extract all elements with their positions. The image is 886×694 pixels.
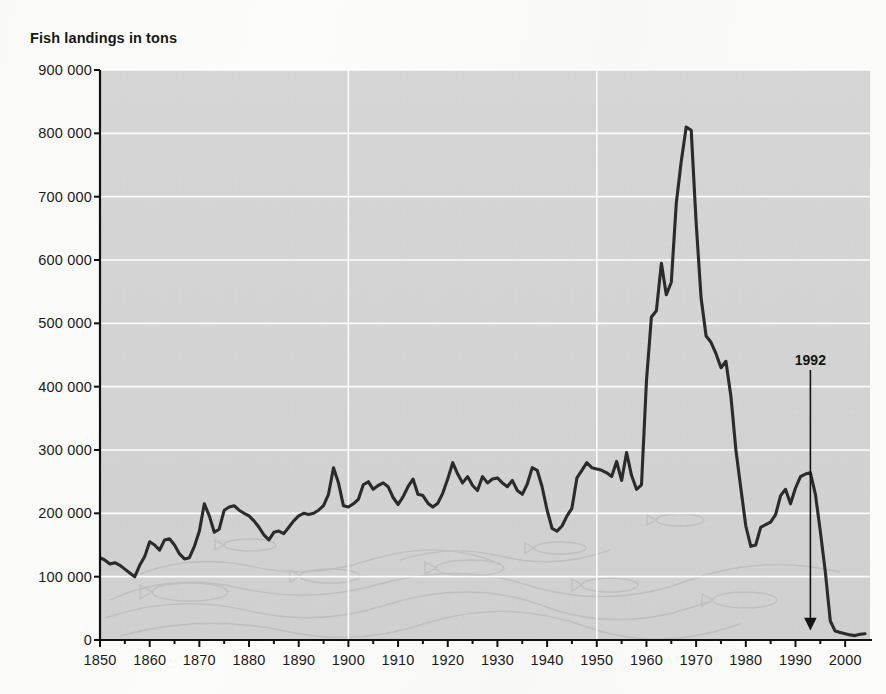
fish-landings-chart: Fish landings in tons 0100 000200 000300… <box>0 0 886 694</box>
x-tick-label: 1990 <box>779 652 812 668</box>
x-tick-label: 1920 <box>431 652 464 668</box>
x-tick-label: 1930 <box>481 652 514 668</box>
x-tick-label: 1860 <box>133 652 166 668</box>
x-tick-label: 1950 <box>580 652 613 668</box>
x-tick-label: 1960 <box>630 652 663 668</box>
x-tick-label: 1870 <box>183 652 216 668</box>
x-tick-label: 1890 <box>282 652 315 668</box>
x-tick-label: 1980 <box>729 652 762 668</box>
x-tick-label: 1850 <box>83 652 116 668</box>
x-tick-label: 1900 <box>332 652 365 668</box>
x-tick-label: 1910 <box>382 652 415 668</box>
x-tick-label: 1970 <box>680 652 713 668</box>
x-tick-label: 1880 <box>233 652 266 668</box>
annotation-label-1992: 1992 <box>795 352 826 368</box>
x-tick-label: 1940 <box>531 652 564 668</box>
plot-background <box>100 70 870 640</box>
plot-canvas <box>0 0 886 694</box>
x-tick-label: 2000 <box>829 652 862 668</box>
x-axis-tick-labels: 1850186018701880189019001910192019301940… <box>0 652 886 676</box>
